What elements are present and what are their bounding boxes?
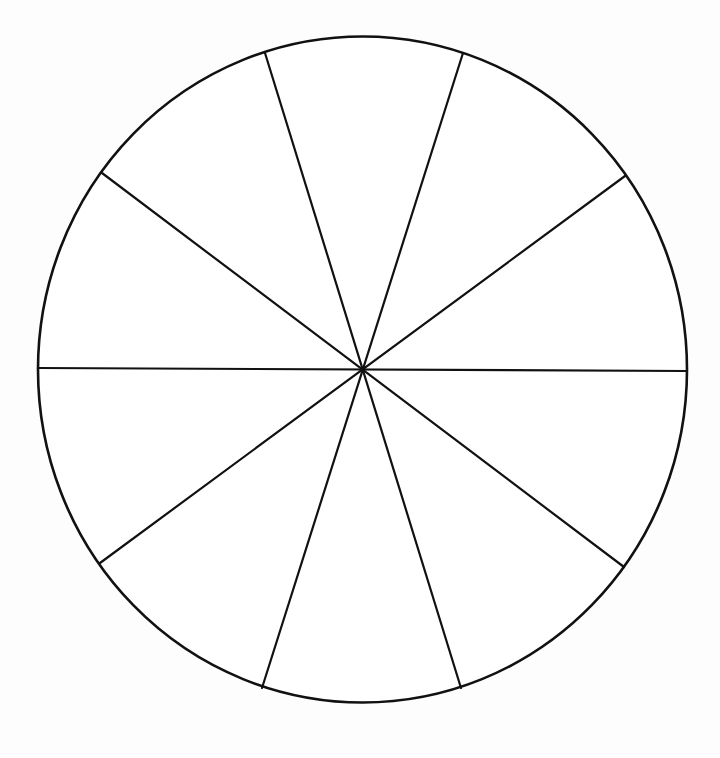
diagram-svg (0, 0, 720, 758)
segmented-circle-diagram (0, 0, 720, 758)
